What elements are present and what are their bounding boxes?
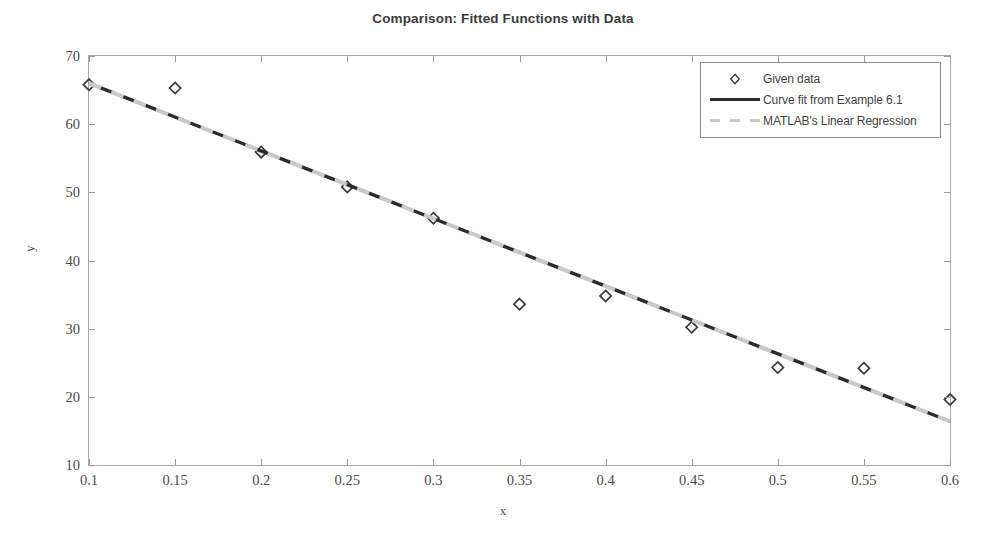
y-tick-mark	[89, 56, 95, 57]
x-tick-mark-top	[606, 56, 607, 62]
x-tick-label: 0.6	[941, 472, 959, 489]
y-tick-mark-right	[944, 56, 950, 57]
y-tick-label: 40	[36, 252, 80, 269]
x-tick-mark	[864, 459, 865, 465]
x-tick-mark	[606, 459, 607, 465]
x-tick-mark-top	[347, 56, 348, 62]
legend-label: MATLAB's Linear Regression	[763, 114, 917, 128]
page-title: Comparison: Fitted Functions with Data	[0, 11, 1006, 26]
legend-item-given-data: Given data	[707, 68, 934, 89]
x-tick-mark	[520, 459, 521, 465]
x-tick-mark-top	[950, 56, 951, 62]
x-tick-mark	[347, 459, 348, 465]
x-tick-label: 0.15	[162, 472, 187, 489]
y-tick-label: 10	[36, 457, 80, 474]
x-tick-label: 0.2	[252, 472, 270, 489]
x-tick-mark-top	[175, 56, 176, 62]
x-tick-mark	[175, 459, 176, 465]
y-tick-mark-right	[944, 397, 950, 398]
legend-box: Given data Curve fit from Example 6.1 MA…	[700, 62, 941, 138]
y-tick-mark-right	[944, 192, 950, 193]
y-tick-mark	[89, 192, 95, 193]
data-point-marker	[514, 299, 525, 310]
y-tick-label: 30	[36, 320, 80, 337]
line-dashed-icon	[707, 113, 763, 129]
x-tick-mark	[778, 459, 779, 465]
figure-canvas: Comparison: Fitted Functions with Data y…	[0, 0, 1006, 547]
x-tick-label: 0.55	[851, 472, 876, 489]
data-point-marker	[600, 290, 611, 301]
y-tick-mark	[89, 261, 95, 262]
data-point-marker	[858, 363, 869, 374]
x-tick-mark-top	[261, 56, 262, 62]
y-tick-label: 20	[36, 388, 80, 405]
x-tick-mark	[433, 459, 434, 465]
line-solid-icon	[707, 92, 763, 108]
x-tick-label: 0.25	[335, 472, 360, 489]
x-tick-mark-top	[692, 56, 693, 62]
x-axis-label: x	[0, 503, 1006, 519]
x-tick-mark-top	[520, 56, 521, 62]
x-tick-label: 0.45	[679, 472, 704, 489]
x-tick-label: 0.5	[769, 472, 787, 489]
data-point-marker	[772, 362, 783, 373]
legend-label: Given data	[763, 72, 820, 86]
x-tick-label: 0.1	[80, 472, 98, 489]
x-tick-label: 0.3	[424, 472, 442, 489]
x-tick-mark	[950, 459, 951, 465]
legend-item-curve-fit: Curve fit from Example 6.1	[707, 89, 934, 110]
x-tick-mark	[261, 459, 262, 465]
y-tick-mark-right	[944, 465, 950, 466]
y-tick-mark	[89, 124, 95, 125]
y-tick-mark-right	[944, 329, 950, 330]
x-tick-label: 0.4	[597, 472, 615, 489]
legend-item-linear-regression: MATLAB's Linear Regression	[707, 110, 934, 131]
marker-diamond-icon	[707, 71, 763, 87]
legend-label: Curve fit from Example 6.1	[763, 93, 902, 107]
x-tick-mark	[692, 459, 693, 465]
y-tick-mark	[89, 397, 95, 398]
data-point-marker	[170, 82, 181, 93]
y-tick-label: 70	[36, 48, 80, 65]
y-tick-mark	[89, 465, 95, 466]
y-tick-label: 60	[36, 116, 80, 133]
y-tick-label: 50	[36, 184, 80, 201]
data-point-marker	[944, 394, 955, 405]
x-tick-mark-top	[433, 56, 434, 62]
x-tick-label: 0.35	[507, 472, 532, 489]
y-tick-mark-right	[944, 124, 950, 125]
y-tick-mark-right	[944, 261, 950, 262]
y-tick-mark	[89, 329, 95, 330]
